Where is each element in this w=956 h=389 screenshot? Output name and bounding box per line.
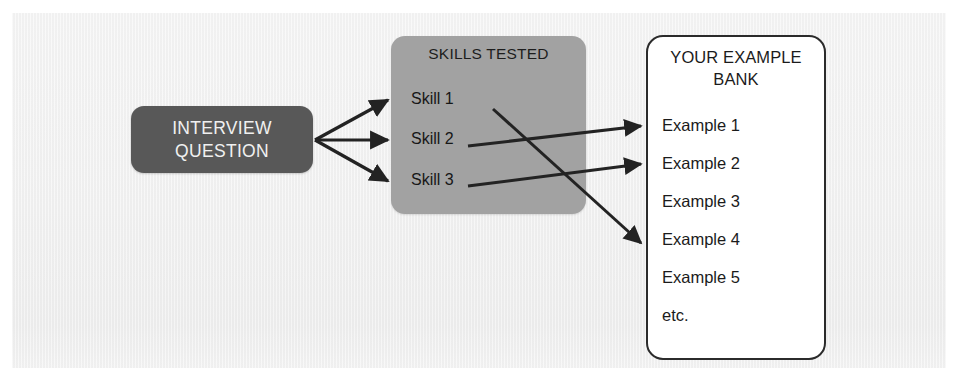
node-interview-question-line-2: QUESTION xyxy=(175,140,269,163)
connector-question-to-skill-3 xyxy=(315,140,388,181)
node-interview-question[interactable]: INTERVIEW QUESTION xyxy=(131,106,313,173)
scanned-page: INTERVIEW QUESTION SKILLS TESTED Skill 1… xyxy=(0,0,956,389)
skill-item-2[interactable]: Skill 2 xyxy=(411,130,454,148)
node-skills-tested[interactable]: SKILLS TESTED Skill 1 Skill 2 Skill 3 xyxy=(391,36,586,214)
example-item-etc[interactable]: etc. xyxy=(662,306,689,325)
example-item-1[interactable]: Example 1 xyxy=(662,116,740,135)
skill-item-1[interactable]: Skill 1 xyxy=(411,90,454,108)
diagram-canvas: INTERVIEW QUESTION SKILLS TESTED Skill 1… xyxy=(0,0,956,389)
node-example-bank[interactable]: YOUR EXAMPLE BANK Example 1 Example 2 Ex… xyxy=(646,35,826,360)
example-item-3[interactable]: Example 3 xyxy=(662,192,740,211)
connector-question-to-skill-1 xyxy=(315,100,388,140)
node-interview-question-line-1: INTERVIEW xyxy=(172,117,272,140)
skill-item-3[interactable]: Skill 3 xyxy=(411,171,454,189)
node-example-bank-title-line-1: YOUR EXAMPLE xyxy=(648,46,824,68)
example-item-2[interactable]: Example 2 xyxy=(662,154,740,173)
node-example-bank-title: YOUR EXAMPLE BANK xyxy=(648,46,824,90)
example-item-4[interactable]: Example 4 xyxy=(662,230,740,249)
example-item-5[interactable]: Example 5 xyxy=(662,268,740,287)
node-skills-tested-title: SKILLS TESTED xyxy=(391,45,586,63)
node-example-bank-title-line-2: BANK xyxy=(648,68,824,90)
